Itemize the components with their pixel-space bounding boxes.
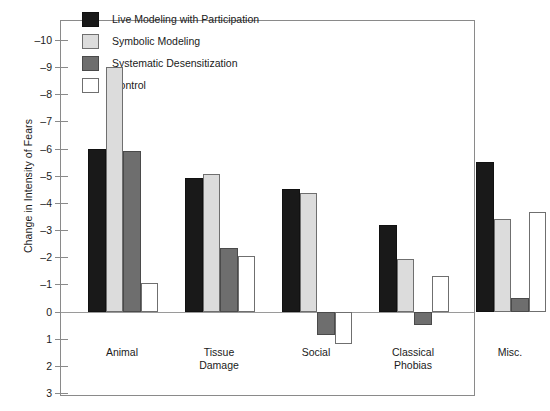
y-tick-label: 3	[46, 388, 52, 399]
y-tick-label: 1	[46, 333, 52, 344]
y-tick-mark-inner	[61, 257, 68, 258]
bar-live	[88, 149, 106, 312]
plot-area: –10–9–8–7–6–5–4–3–2–10123	[60, 20, 475, 396]
y-tick-mark-inner	[61, 94, 68, 95]
bar-control	[141, 283, 159, 312]
zero-baseline	[61, 312, 474, 313]
bar-systematic	[317, 312, 335, 335]
bar-live	[185, 178, 203, 311]
bar-systematic	[123, 151, 141, 311]
bar-control	[238, 256, 256, 312]
y-axis-title: Change in Intensity of Fears	[22, 86, 34, 286]
y-tick-label: –8	[40, 89, 52, 100]
legend-item-live: Live Modeling with Participation	[82, 8, 259, 30]
bar-symbolic	[300, 193, 318, 311]
y-tick-mark-inner	[61, 393, 68, 394]
bar-live	[282, 189, 300, 311]
x-category-label: Misc.	[453, 346, 550, 359]
y-tick-label: –3	[40, 225, 52, 236]
bar-systematic	[220, 248, 238, 312]
y-tick-label: –2	[40, 252, 52, 263]
y-tick-mark-inner	[61, 40, 68, 41]
legend-label-systematic: Systematic Desensitization	[112, 57, 237, 69]
bar-control	[432, 276, 450, 311]
bar-control	[529, 212, 547, 311]
y-tick-label: –4	[40, 198, 52, 209]
y-tick-label: –5	[40, 171, 52, 182]
y-tick-mark-inner	[61, 284, 68, 285]
legend-swatch-symbolic-icon	[82, 34, 99, 49]
y-tick-label: –6	[40, 143, 52, 154]
bar-live	[476, 162, 494, 311]
bar-symbolic	[397, 259, 415, 312]
y-tick-label: 2	[46, 361, 52, 372]
legend-label-symbolic: Symbolic Modeling	[112, 35, 200, 47]
y-tick-mark-inner	[61, 176, 68, 177]
y-tick-label: –10	[34, 35, 52, 46]
y-tick-label: –7	[40, 116, 52, 127]
legend-label-live: Live Modeling with Participation	[112, 13, 259, 25]
bar-symbolic	[494, 219, 512, 311]
legend-swatch-live-icon	[82, 12, 99, 27]
y-tick-mark-inner	[61, 121, 68, 122]
legend-item-symbolic: Symbolic Modeling	[82, 30, 259, 52]
y-tick-mark-inner	[61, 339, 68, 340]
y-tick-label: 0	[46, 306, 52, 317]
legend-swatch-systematic-icon	[82, 56, 99, 71]
bar-live	[379, 225, 397, 312]
bar-symbolic	[106, 67, 124, 311]
bar-control	[335, 312, 353, 345]
bar-symbolic	[203, 174, 221, 311]
y-tick-mark-inner	[61, 230, 68, 231]
y-tick-mark-inner	[61, 366, 68, 367]
bar-systematic	[414, 312, 432, 326]
legend-swatch-control-icon	[82, 78, 99, 93]
y-tick-label: –9	[40, 62, 52, 73]
y-tick-mark-inner	[61, 203, 68, 204]
y-tick-mark-inner	[61, 149, 68, 150]
bar-systematic	[511, 298, 529, 312]
y-tick-label: –1	[40, 279, 52, 290]
y-tick-mark-inner	[61, 67, 68, 68]
